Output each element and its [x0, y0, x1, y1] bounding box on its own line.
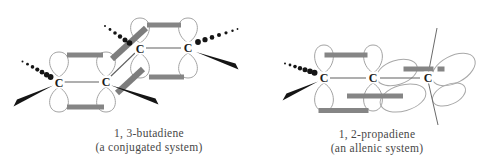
p-orbital-lobe	[179, 18, 198, 43]
hashed-wedge-bond	[22, 61, 54, 80]
propadiene-caption: 1, 2-propadiene (an allenic system)	[282, 128, 472, 155]
ch-bond-line	[429, 83, 439, 125]
butadiene-caption: 1, 3-butadiene (a conjugated system)	[54, 127, 244, 154]
hashed-wedge-bond	[195, 28, 238, 45]
carbon-label: C	[368, 72, 379, 84]
pi-overlap-bar	[67, 53, 103, 58]
p-orbital-lobe	[179, 53, 198, 78]
p-orbital-lobe	[50, 52, 69, 77]
pi-overlap-bar	[438, 67, 445, 72]
p-orbital-lobe	[315, 45, 334, 73]
solid-wedge-bond	[110, 85, 159, 105]
hashed-wedge-bond	[284, 63, 318, 76]
orbital-lobe-ellipse	[426, 47, 480, 93]
compound-name: 1, 3-butadiene	[54, 127, 244, 141]
pi-overlap-bar	[325, 53, 368, 58]
system-description: (an allenic system)	[282, 142, 472, 156]
pi-overlap-bar	[67, 105, 104, 110]
solid-wedge-bond	[283, 82, 319, 101]
solid-wedge-bond	[14, 86, 54, 107]
system-description: (a conjugated system)	[54, 141, 244, 155]
compound-name: 1, 2-propadiene	[282, 128, 472, 142]
carbon-label: C	[423, 72, 434, 84]
hashed-wedge-bond	[104, 25, 132, 46]
carbon-label: C	[319, 72, 330, 84]
solid-wedge-bond	[196, 52, 239, 70]
carbon-label: C	[101, 76, 112, 88]
p-orbital-lobe	[315, 83, 334, 111]
p-orbital-lobe	[50, 87, 69, 112]
pi-overlap-bar	[319, 108, 369, 113]
pi-overlap-bar	[149, 75, 184, 80]
butadiene-diagram	[14, 18, 239, 112]
ch-bond-line	[429, 28, 438, 73]
carbon-label: C	[54, 77, 65, 89]
conjugation-overlap-bar	[117, 69, 143, 93]
propadiene-diagram	[283, 28, 481, 125]
p-orbital-lobe	[364, 45, 383, 73]
orbital-figure: C C C C C C C 1, 3-butadiene (a conjugat…	[0, 0, 481, 163]
carbon-label: C	[135, 43, 146, 55]
pi-overlap-bar	[147, 23, 181, 28]
carbon-label: C	[183, 42, 194, 54]
pi-overlap-bar	[347, 94, 403, 99]
